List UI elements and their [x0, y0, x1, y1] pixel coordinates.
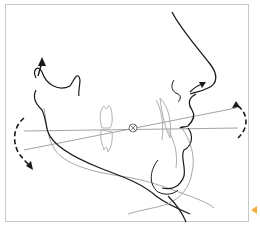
condyle-outline [35, 68, 80, 96]
nose-profile [172, 12, 216, 94]
left-rotation-arrow-icon [15, 118, 33, 170]
chin-outline [168, 196, 186, 222]
right-rotation-arrow-icon [232, 101, 246, 138]
rotation-center-icon [129, 124, 137, 132]
molar-teeth-icon [100, 106, 112, 152]
nostril-outline [172, 80, 180, 102]
page-marker-icon [251, 206, 257, 214]
lip-outline-rotated [128, 128, 193, 214]
mandible-outline-rotated [44, 108, 214, 208]
incisor-teeth-icon [156, 98, 177, 168]
profile-diagram [0, 0, 260, 226]
upper-lip-outline [180, 94, 196, 128]
